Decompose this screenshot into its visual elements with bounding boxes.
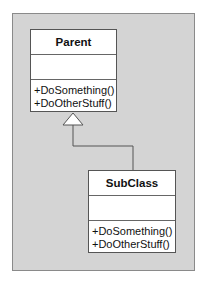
operation: +DoOtherStuff() xyxy=(92,238,175,251)
class-name: Parent xyxy=(31,30,116,55)
class-name: SubClass xyxy=(89,171,175,196)
operation: +DoSomething() xyxy=(92,225,175,238)
attributes-compartment xyxy=(31,55,116,80)
generalization-arrow-icon xyxy=(63,113,83,125)
class-box-subclass[interactable]: SubClass +DoSomething() +DoOtherStuff() xyxy=(88,170,176,253)
operations-compartment: +DoSomething() +DoOtherStuff() xyxy=(89,221,175,251)
operations-compartment: +DoSomething() +DoOtherStuff() xyxy=(31,80,116,110)
operation: +DoOtherStuff() xyxy=(34,97,116,110)
attributes-compartment xyxy=(89,196,175,221)
class-box-parent[interactable]: Parent +DoSomething() +DoOtherStuff() xyxy=(30,29,117,112)
operation: +DoSomething() xyxy=(34,84,116,97)
